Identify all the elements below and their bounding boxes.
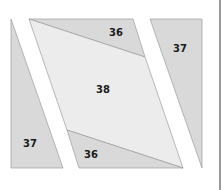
- piece-label: 37: [173, 43, 187, 54]
- vertical-divider: [219, 0, 221, 190]
- piece-label: 38: [96, 84, 110, 95]
- quilt-diagram: 37 36 38 36 37: [0, 0, 222, 190]
- piece-label: 36: [109, 27, 123, 38]
- piece-label: 36: [84, 149, 98, 160]
- piece-label: 37: [23, 138, 37, 149]
